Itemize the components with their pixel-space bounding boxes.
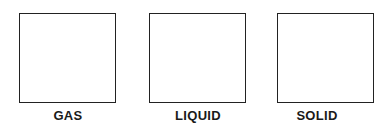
solid-label: SOLID [268, 108, 366, 123]
gas-label: GAS [19, 108, 117, 123]
solid-box [277, 13, 374, 103]
liquid-label: LIQUID [149, 108, 247, 123]
liquid-box [149, 13, 246, 103]
gas-box [19, 13, 116, 103]
